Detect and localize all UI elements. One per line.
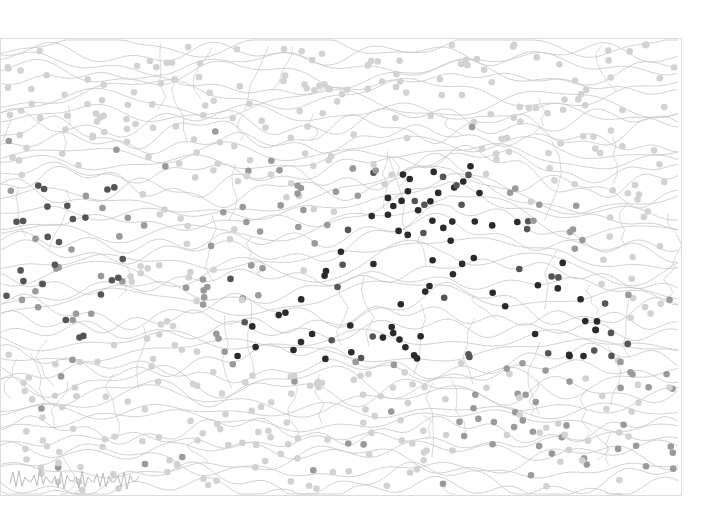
- dot: [615, 446, 622, 453]
- dot: [185, 44, 192, 51]
- dot: [300, 207, 307, 214]
- dot: [536, 443, 543, 450]
- dot: [174, 461, 181, 468]
- dot: [603, 406, 610, 413]
- dot: [420, 427, 427, 434]
- dot: [582, 102, 589, 109]
- dot: [334, 284, 341, 291]
- dot: [21, 388, 28, 395]
- dot: [557, 140, 564, 147]
- dot: [625, 433, 632, 440]
- dot: [141, 222, 148, 229]
- dot: [347, 322, 354, 329]
- dot: [474, 56, 481, 63]
- dot: [536, 430, 543, 437]
- dot: [77, 359, 84, 366]
- dot: [548, 273, 555, 280]
- dot: [522, 391, 529, 398]
- dot: [17, 267, 24, 274]
- dot: [39, 281, 46, 288]
- dot: [184, 223, 191, 230]
- dot: [204, 284, 211, 291]
- dot: [187, 269, 194, 276]
- dot: [404, 135, 411, 142]
- dot: [72, 384, 79, 391]
- dot: [140, 191, 147, 198]
- dot: [98, 291, 105, 298]
- dot: [111, 342, 118, 349]
- dot: [407, 469, 414, 476]
- dot: [94, 359, 101, 366]
- dot: [393, 84, 400, 91]
- dot: [64, 202, 71, 209]
- dot: [643, 463, 650, 470]
- dot: [414, 466, 421, 473]
- dot: [357, 372, 364, 379]
- dot: [560, 106, 567, 113]
- dot: [103, 394, 110, 401]
- dot: [385, 211, 392, 218]
- dot: [597, 150, 604, 157]
- dot: [119, 256, 126, 263]
- dot: [231, 226, 238, 233]
- dot: [385, 195, 392, 202]
- dot: [70, 317, 77, 324]
- dot: [377, 393, 384, 400]
- dot: [429, 257, 436, 264]
- dot: [507, 189, 514, 196]
- dot: [255, 292, 262, 299]
- dot: [44, 203, 51, 210]
- dot: [591, 347, 598, 354]
- dot: [158, 80, 165, 87]
- dot: [156, 434, 163, 441]
- dot: [398, 301, 405, 308]
- dot: [633, 442, 640, 449]
- dot: [75, 162, 82, 169]
- dot: [277, 202, 284, 209]
- dot: [249, 323, 256, 330]
- dot: [388, 324, 395, 331]
- dot: [213, 477, 220, 484]
- dot: [252, 464, 259, 471]
- dot: [13, 219, 20, 226]
- dot: [83, 193, 90, 200]
- dot: [352, 359, 359, 366]
- dot: [99, 205, 106, 212]
- dot: [315, 384, 322, 391]
- dot: [171, 76, 178, 83]
- dot: [201, 294, 208, 301]
- dot: [388, 408, 395, 415]
- dot: [415, 207, 422, 214]
- dot: [210, 167, 217, 174]
- dot: [197, 60, 204, 67]
- dot: [288, 180, 295, 187]
- dot: [239, 440, 246, 447]
- dot: [17, 67, 24, 74]
- dot: [242, 379, 249, 386]
- dot: [288, 391, 295, 398]
- dot: [23, 428, 30, 435]
- dot: [310, 467, 317, 474]
- dot: [599, 393, 606, 400]
- dot: [333, 188, 340, 195]
- dot: [666, 297, 673, 304]
- dot: [148, 363, 155, 370]
- dot: [439, 92, 446, 99]
- dot: [298, 339, 305, 346]
- dot: [533, 54, 540, 61]
- dot: [504, 135, 511, 142]
- dot: [150, 124, 157, 131]
- dot: [328, 337, 335, 344]
- dot: [20, 278, 27, 285]
- dot: [344, 86, 351, 93]
- dot: [582, 318, 589, 325]
- dot: [551, 177, 558, 184]
- dot: [580, 353, 587, 360]
- dot: [479, 146, 486, 153]
- dot: [579, 237, 586, 244]
- dot: [360, 391, 367, 398]
- dot: [84, 76, 91, 83]
- dot: [632, 182, 639, 189]
- dot: [530, 428, 537, 435]
- dot: [252, 344, 259, 351]
